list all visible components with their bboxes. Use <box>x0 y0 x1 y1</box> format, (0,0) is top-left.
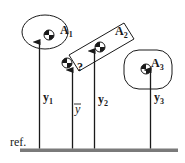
body-a3: A3 <box>124 50 172 89</box>
reference-ground-bar <box>20 149 178 153</box>
height-label-ybar: y <box>74 102 81 116</box>
height-label-y3: y3 <box>154 90 164 106</box>
reference-label: ref. <box>10 135 26 149</box>
body-a3-label: A3 <box>151 56 164 72</box>
unknown-marker: ? <box>77 60 83 74</box>
center-of-mass-icon <box>95 42 105 52</box>
center-of-mass-icon <box>62 58 72 68</box>
center-of-mass-icon <box>44 30 54 40</box>
center-of-mass-icon <box>141 64 151 74</box>
body-a1: A1 <box>22 15 73 49</box>
center-of-mass-diagram: ref. A1 y1 A2 y2 ? y <box>0 0 185 163</box>
height-label-y2: y2 <box>98 92 108 108</box>
height-label-y1: y1 <box>43 90 53 106</box>
body-a1-label: A1 <box>60 23 73 39</box>
